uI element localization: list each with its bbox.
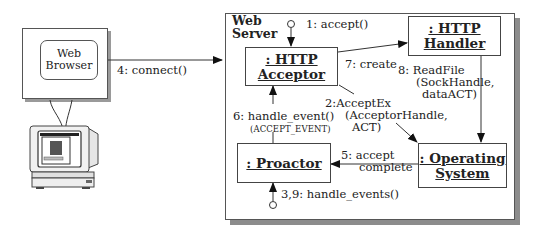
http-acceptor-line1: : HTTP — [265, 52, 317, 67]
operating-system-line2: System — [435, 166, 489, 181]
http-handler-line2: Handler — [424, 36, 486, 51]
message-accept-complete-2: complete — [359, 161, 413, 173]
proactor-object: : Proactor — [237, 143, 331, 183]
message-handle-event: 6: handle_event() — [233, 110, 334, 122]
proactor-line1: : Proactor — [246, 156, 321, 171]
http-acceptor-line2: Acceptor — [258, 67, 325, 82]
operating-system-line1: : Operating — [420, 151, 506, 166]
message-readfile-3: dataACT) — [422, 88, 477, 100]
http-handler-object: : HTTP Handler — [408, 16, 501, 56]
http-acceptor-object: : HTTP Acceptor — [245, 47, 338, 86]
operating-system-object: : Operating System — [418, 143, 507, 188]
message-handle-events: 3,9: handle_events() — [281, 188, 399, 200]
message-accept: 1: accept() — [306, 18, 368, 30]
message-accept-event: (ACCEPT_EVENT) — [250, 123, 331, 135]
http-handler-line1: : HTTP — [428, 21, 480, 36]
message-acceptex-3: ACT) — [352, 121, 381, 133]
message-create: 7: create — [345, 58, 397, 70]
